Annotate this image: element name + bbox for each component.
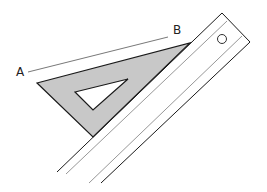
set-square <box>37 43 190 137</box>
diagram-canvas: A B <box>0 0 267 192</box>
label-point-b: B <box>173 23 181 37</box>
ruler-hole <box>218 35 227 44</box>
label-point-a: A <box>16 65 25 79</box>
